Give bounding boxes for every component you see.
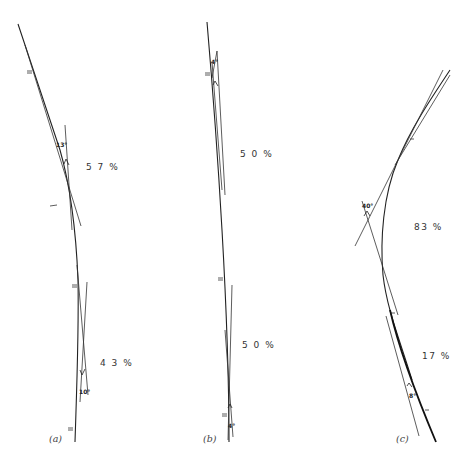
panel-b-arrow-marker-1 <box>205 73 210 75</box>
panel-c-upper-angle-label: 40° <box>362 202 373 209</box>
panel-b-upper-percent: 5 0 % <box>240 149 273 159</box>
panel-a-tick <box>50 205 57 206</box>
panel-c-upper-tangent-2 <box>395 75 450 165</box>
panel-a-curve <box>18 24 78 442</box>
panel-a-upper-angle-arc <box>64 159 69 165</box>
panel-a-upper-percent: 5 7 % <box>86 162 119 172</box>
panel-a: 13° 10° 5 7 % 4 3 % (a) <box>18 24 133 444</box>
panel-a-arrow-marker-2 <box>72 285 77 287</box>
panel-b-upper-angle-label: 4° <box>211 58 218 65</box>
panel-a-lower-percent: 4 3 % <box>100 358 133 368</box>
curvature-diagram-figure: 13° 10° 5 7 % 4 3 % (a) 4° 4° <box>0 0 467 463</box>
panel-c-upper-tangent-3 <box>362 201 398 315</box>
panel-a-lower-angle-label: 10° <box>79 388 90 395</box>
panel-c-lower-angle-arc <box>407 383 412 387</box>
panel-c-upper-angle-arc <box>364 211 370 216</box>
panel-a-arrow-marker-1 <box>27 71 32 73</box>
panel-b: 4° 4° 5 0 % 5 0 % (b) <box>203 22 275 444</box>
panel-c-lower-tangent-1 <box>386 316 419 436</box>
panel-b-upper-tangent-3 <box>212 62 222 190</box>
panel-b-arrow-marker-2 <box>218 278 223 280</box>
panel-c-label: (c) <box>396 433 409 444</box>
panel-a-upper-angle-label: 13° <box>56 141 67 148</box>
panel-c-upper-percent: 83 % <box>414 222 443 232</box>
panel-b-curve <box>207 22 229 442</box>
panel-b-arrow-marker-3 <box>222 414 227 416</box>
panel-a-upper-tangent-1 <box>25 45 81 226</box>
diagram-canvas: 13° 10° 5 7 % 4 3 % (a) 4° 4° <box>0 0 467 463</box>
panel-a-arrow-marker-3 <box>68 428 73 430</box>
panel-c-lower-percent: 17 % <box>422 351 451 361</box>
panel-a-lower-tangent-2 <box>77 265 88 395</box>
panel-c-lower-angle-label: 8° <box>409 392 416 399</box>
panel-c: 40° 8° 83 % 17 % (c) <box>355 70 451 444</box>
panel-a-lower-angle-arc <box>80 369 85 375</box>
panel-b-lower-percent: 5 0 % <box>242 340 275 350</box>
panel-c-curve-lower-segment <box>390 310 436 442</box>
panel-b-label: (b) <box>203 433 217 444</box>
panel-a-label: (a) <box>49 433 62 444</box>
panel-b-lower-angle-label: 4° <box>228 422 235 429</box>
